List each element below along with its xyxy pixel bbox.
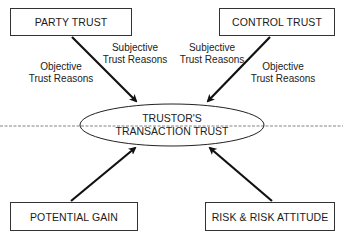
center-line-2: TRANSACTION TRUST xyxy=(100,125,244,138)
control-objective-label: Objective Trust Reasons xyxy=(248,61,318,85)
label-line: Objective xyxy=(26,61,96,73)
party-trust-box: PARTY TRUST xyxy=(10,8,132,36)
party-subjective-label: Subjective Trust Reasons xyxy=(100,42,170,66)
party-objective-label: Objective Trust Reasons xyxy=(26,61,96,85)
label-line: Trust Reasons xyxy=(248,73,318,85)
label-line: Trust Reasons xyxy=(26,73,96,85)
trust-diagram: PARTY TRUST CONTROL TRUST Subjective Tru… xyxy=(0,0,343,240)
control-trust-box: CONTROL TRUST xyxy=(219,8,335,36)
center-node-text: TRUSTOR'S TRANSACTION TRUST xyxy=(100,112,244,138)
label-line: Trust Reasons xyxy=(177,54,247,66)
risk-attitude-box: RISK & RISK ATTITUDE xyxy=(205,202,335,231)
risk-attitude-label: RISK & RISK ATTITUDE xyxy=(212,211,329,223)
label-line: Subjective xyxy=(177,42,247,54)
potential-gain-box: POTENTIAL GAIN xyxy=(10,202,138,231)
label-line: Objective xyxy=(248,61,318,73)
party-trust-label: PARTY TRUST xyxy=(35,16,108,28)
control-subjective-label: Subjective Trust Reasons xyxy=(177,42,247,66)
center-line-1: TRUSTOR'S xyxy=(100,112,244,125)
potential-gain-label: POTENTIAL GAIN xyxy=(30,211,118,223)
arrow-risk-to-center xyxy=(210,148,272,201)
arrow-gain-to-center xyxy=(71,148,135,201)
label-line: Subjective xyxy=(100,42,170,54)
label-line: Trust Reasons xyxy=(100,54,170,66)
control-trust-label: CONTROL TRUST xyxy=(232,16,322,28)
